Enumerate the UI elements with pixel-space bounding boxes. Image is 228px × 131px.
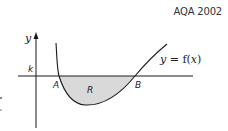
graph-diagram: y k A B R y = f(x) xyxy=(0,0,228,131)
region-r-label: R xyxy=(87,85,93,95)
point-b-label: B xyxy=(135,80,141,90)
point-a-label: A xyxy=(52,80,59,90)
region-r-shading xyxy=(59,76,135,105)
y-axis-label: y xyxy=(24,32,32,45)
y-axis-arrow-icon xyxy=(34,32,39,39)
curve-equation-label: y = f(x) xyxy=(159,53,201,66)
edge-mark xyxy=(0,109,2,111)
curve-eq-close: ) xyxy=(197,53,201,66)
edge-mark xyxy=(0,97,2,99)
curve-eq-mid: = f( xyxy=(166,53,191,66)
k-label: k xyxy=(28,64,34,74)
